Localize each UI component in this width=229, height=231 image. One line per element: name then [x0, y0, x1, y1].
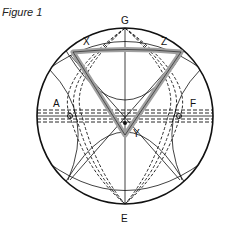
label-g: G [121, 15, 129, 26]
point-y-marker [123, 121, 127, 125]
label-f: F [190, 98, 196, 109]
label-e: E [121, 213, 128, 224]
label-x: X [83, 36, 90, 47]
label-a: A [53, 98, 60, 109]
label-z: Z [161, 36, 167, 47]
stereonet-diagram: G E A F X Z Y [0, 0, 229, 231]
label-y: Y [133, 128, 140, 139]
